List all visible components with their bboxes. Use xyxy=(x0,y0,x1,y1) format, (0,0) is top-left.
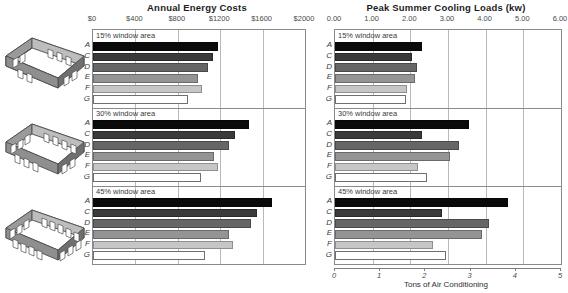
gridline xyxy=(486,30,487,264)
bar-G xyxy=(93,251,205,259)
x-tick-label: $1600 xyxy=(251,14,272,23)
chart-annual-energy-costs: Annual Energy Costs $0$400$800$1200$1600… xyxy=(88,0,306,293)
row-label-E: E xyxy=(78,229,90,237)
plot-area-right: 15% window area30% window area45% window… xyxy=(334,29,562,265)
bar-C xyxy=(335,209,442,217)
bar-E xyxy=(335,74,415,82)
panel-label: 30% window area xyxy=(338,109,397,118)
chart-title-left: Annual Energy Costs xyxy=(88,2,306,13)
panel-label: 15% window area xyxy=(338,31,397,40)
row-label-A: A xyxy=(320,41,332,49)
bar-D xyxy=(335,63,417,71)
row-label-A: A xyxy=(78,41,90,49)
bar-F xyxy=(93,85,202,93)
bar-A xyxy=(93,42,218,50)
bar-G xyxy=(335,95,406,103)
x-axis-bottom-right: 012345 xyxy=(334,268,562,279)
x-tick-label: 6.00 xyxy=(553,14,568,23)
row-label-C: C xyxy=(78,52,90,60)
building-illustration-15 xyxy=(2,26,88,104)
secondary-x-tick-label: 3 xyxy=(468,271,472,280)
row-label-column-right: ACDEFGACDEFGACDEFG xyxy=(320,0,334,293)
row-label-F: F xyxy=(78,240,90,248)
row-label-D: D xyxy=(78,63,90,71)
bar-F xyxy=(335,163,418,171)
bar-E xyxy=(335,230,482,238)
bar-F xyxy=(93,241,233,249)
x-tick-label: $400 xyxy=(126,14,143,23)
row-label-C: C xyxy=(78,130,90,138)
row-label-G: G xyxy=(78,251,90,259)
bar-C xyxy=(335,53,412,61)
panel-label: 45% window area xyxy=(96,187,155,196)
bar-G xyxy=(335,173,427,181)
row-label-A: A xyxy=(78,119,90,127)
row-label-D: D xyxy=(78,219,90,227)
row-label-E: E xyxy=(320,229,332,237)
x-tick-label: 3.00 xyxy=(440,14,455,23)
bar-C xyxy=(93,53,213,61)
row-label-G: G xyxy=(78,173,90,181)
row-label-E: E xyxy=(320,73,332,81)
x-tick-label: 4.00 xyxy=(477,14,492,23)
x-axis-caption-right: Tons of Air Conditioning xyxy=(330,280,562,289)
bar-A xyxy=(93,198,272,206)
bar-C xyxy=(93,131,235,139)
bar-D xyxy=(335,141,459,149)
panel-label: 15% window area xyxy=(96,31,155,40)
building-illustration-column xyxy=(0,0,88,293)
building-isometric-30-icon xyxy=(2,112,88,190)
row-label-E: E xyxy=(78,73,90,81)
chart-title-right: Peak Summer Cooling Loads (kw) xyxy=(330,2,562,13)
building-isometric-45-icon xyxy=(2,198,88,276)
bar-F xyxy=(335,241,433,249)
row-label-A: A xyxy=(78,197,90,205)
panel-label: 30% window area xyxy=(96,109,155,118)
bar-A xyxy=(335,120,469,128)
row-label-C: C xyxy=(320,52,332,60)
row-label-D: D xyxy=(320,63,332,71)
bar-C xyxy=(335,131,422,139)
row-label-C: C xyxy=(78,208,90,216)
bar-E xyxy=(93,74,198,82)
bar-D xyxy=(93,141,229,149)
row-label-A: A xyxy=(320,119,332,127)
row-label-C: C xyxy=(320,208,332,216)
secondary-x-tick-label: 0 xyxy=(332,271,336,280)
chart-peak-summer-cooling-loads: Peak Summer Cooling Loads (kw) 0.001.002… xyxy=(330,0,562,293)
plot-area-left: 15% window area30% window area45% window… xyxy=(92,29,306,265)
row-label-C: C xyxy=(320,130,332,138)
gridline xyxy=(523,30,524,264)
bar-C xyxy=(93,209,257,217)
bar-G xyxy=(93,95,188,103)
secondary-x-tick-label: 1 xyxy=(377,271,381,280)
row-label-column-left: ACDEFGACDEFGACDEFG xyxy=(78,0,92,293)
x-axis-top-right: 0.001.002.003.004.005.006.00 xyxy=(330,14,562,25)
bar-D xyxy=(335,219,489,227)
row-label-G: G xyxy=(78,95,90,103)
row-label-F: F xyxy=(320,84,332,92)
bar-D xyxy=(93,219,251,227)
bar-E xyxy=(93,152,214,160)
building-isometric-15-icon xyxy=(2,26,88,104)
bar-F xyxy=(93,163,218,171)
row-label-A: A xyxy=(320,197,332,205)
row-label-D: D xyxy=(78,141,90,149)
bar-G xyxy=(93,173,201,181)
row-label-G: G xyxy=(320,251,332,259)
figure-root: Annual Energy Costs $0$400$800$1200$1600… xyxy=(0,0,568,293)
bar-G xyxy=(335,251,446,259)
bar-E xyxy=(93,230,229,238)
row-label-G: G xyxy=(320,173,332,181)
secondary-x-tick-label: 5 xyxy=(558,271,562,280)
secondary-x-tick-label: 2 xyxy=(422,271,426,280)
row-label-F: F xyxy=(78,84,90,92)
x-tick-label: 1.00 xyxy=(364,14,379,23)
x-tick-label: $2000 xyxy=(294,14,315,23)
bar-D xyxy=(93,63,208,71)
bar-A xyxy=(93,120,249,128)
x-tick-label: $1200 xyxy=(209,14,230,23)
row-label-D: D xyxy=(320,219,332,227)
row-label-E: E xyxy=(320,151,332,159)
gridline xyxy=(263,30,264,264)
